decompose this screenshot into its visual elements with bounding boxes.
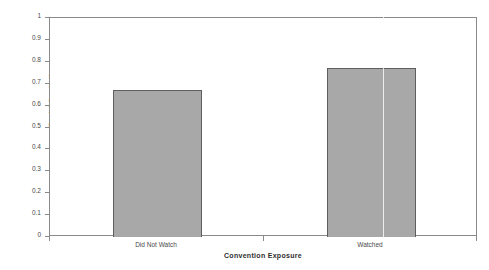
cut-off-title [0, 0, 489, 4]
scan-crease-artifact [383, 0, 384, 270]
y-axis-tick-label: 1 [0, 12, 46, 22]
y-axis-tick-label: 0.7 [0, 78, 46, 88]
bar [113, 90, 202, 237]
plot-area [49, 17, 477, 236]
y-axis-tick-label: 0.2 [0, 187, 46, 197]
y-axis-tick-label: 0.8 [0, 56, 46, 66]
y-axis-tick-label: 0.5 [0, 122, 46, 132]
x-axis-title: Convention Exposure [49, 252, 477, 259]
bar-chart-figure: Racial Symbolism 10.90.80.70.60.50.40.30… [0, 0, 489, 270]
y-axis-tick-label: 0.9 [0, 34, 46, 44]
y-axis-tick-label: 0.1 [0, 209, 46, 219]
x-axis-tick-mark [263, 236, 264, 241]
y-axis-tick-label: 0.6 [0, 100, 46, 110]
x-axis-tick-mark [476, 236, 477, 241]
y-axis-tick-label: 0.3 [0, 165, 46, 175]
x-axis-tick-mark [49, 236, 50, 241]
bar [327, 68, 416, 237]
y-axis-tick-label: 0 [0, 231, 46, 241]
y-axis-tick-label: 0.4 [0, 143, 46, 153]
